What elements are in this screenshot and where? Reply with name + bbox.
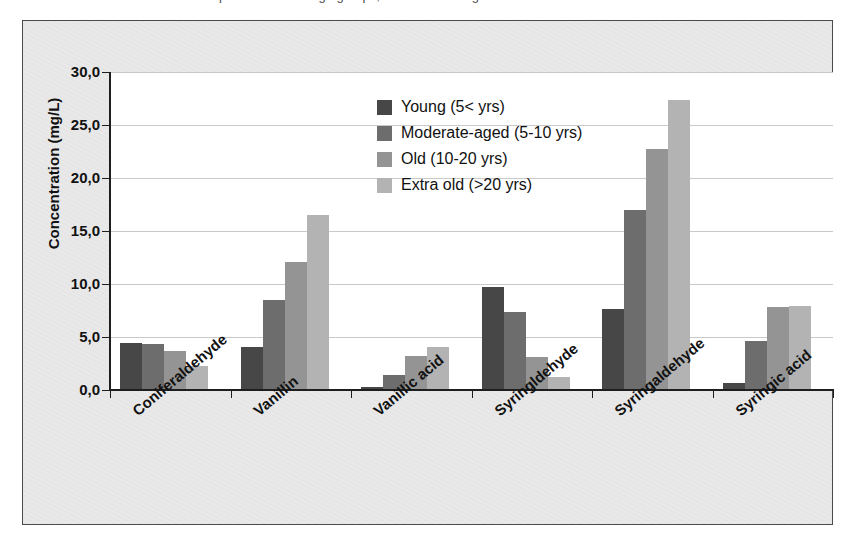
bar bbox=[602, 309, 624, 390]
legend-swatch bbox=[377, 100, 392, 115]
y-axis-tick-labels: 30,025,020,015,010,05,00,0 bbox=[42, 20, 100, 525]
bar bbox=[285, 262, 307, 390]
y-axis-tick-mark bbox=[102, 284, 110, 285]
y-axis-tick-mark bbox=[102, 337, 110, 338]
bar bbox=[241, 347, 263, 390]
y-axis-tick-mark bbox=[102, 231, 110, 232]
y-axis-tick-mark bbox=[102, 178, 110, 179]
x-axis-tick-mark bbox=[833, 391, 834, 398]
legend-swatch bbox=[377, 126, 392, 141]
y-axis-tick-label: 20,0 bbox=[48, 169, 100, 186]
gridline bbox=[110, 284, 833, 285]
bar-chart: Concentration (mg/L) 30,025,020,015,010,… bbox=[22, 20, 833, 525]
bar bbox=[624, 210, 646, 390]
x-axis-tick-mark bbox=[713, 391, 714, 398]
y-axis-tick-mark bbox=[102, 72, 110, 73]
y-axis-tick-mark bbox=[102, 390, 110, 391]
legend-label: Young (5< yrs) bbox=[401, 98, 505, 116]
legend-item: Old (10-20 yrs) bbox=[377, 146, 582, 172]
bar bbox=[120, 343, 142, 390]
y-axis-tick-label: 25,0 bbox=[48, 116, 100, 133]
cropped-caption-strip: determined in the wine samples of differ… bbox=[0, 0, 855, 14]
legend-swatch bbox=[377, 178, 392, 193]
figure-page: determined in the wine samples of differ… bbox=[0, 0, 855, 538]
x-axis-tick-mark bbox=[110, 391, 111, 398]
bar bbox=[307, 215, 329, 390]
bar bbox=[263, 300, 285, 390]
x-axis-tick-mark bbox=[472, 391, 473, 398]
legend-item: Moderate-aged (5-10 yrs) bbox=[377, 120, 582, 146]
y-axis-tick-mark bbox=[102, 125, 110, 126]
x-axis-tick-mark bbox=[351, 391, 352, 398]
y-axis-tick-label: 10,0 bbox=[48, 275, 100, 292]
x-axis-tick-mark bbox=[231, 391, 232, 398]
x-axis-tick-mark bbox=[592, 391, 593, 398]
legend-swatch bbox=[377, 152, 392, 167]
gridline bbox=[110, 72, 833, 73]
legend: Young (5< yrs)Moderate-aged (5-10 yrs)Ol… bbox=[377, 94, 582, 198]
y-axis-tick-label: 30,0 bbox=[48, 63, 100, 80]
y-axis-tick-label: 15,0 bbox=[48, 222, 100, 239]
cropped-caption-text: determined in the wine samples of differ… bbox=[60, 0, 512, 3]
gridline bbox=[110, 231, 833, 232]
legend-label: Old (10-20 yrs) bbox=[401, 150, 508, 168]
y-axis-tick-label: 5,0 bbox=[48, 328, 100, 345]
legend-label: Extra old (>20 yrs) bbox=[401, 176, 532, 194]
legend-item: Young (5< yrs) bbox=[377, 94, 582, 120]
legend-label: Moderate-aged (5-10 yrs) bbox=[401, 124, 582, 142]
legend-item: Extra old (>20 yrs) bbox=[377, 172, 582, 198]
bar bbox=[646, 149, 668, 390]
bar bbox=[482, 287, 504, 390]
y-axis-tick-label: 0,0 bbox=[48, 381, 100, 398]
